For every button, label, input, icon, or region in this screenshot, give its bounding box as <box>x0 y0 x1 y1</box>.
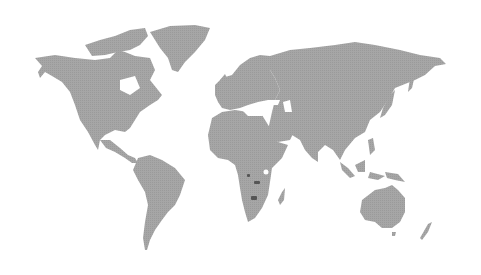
central-america <box>100 140 138 163</box>
world-map-svg <box>0 0 481 275</box>
tasmania <box>392 232 396 236</box>
highlight-central-africa-1 <box>247 174 250 177</box>
lake-victoria <box>264 170 269 175</box>
continent-north-america <box>35 50 162 150</box>
highlight-southern-africa-3 <box>251 196 257 200</box>
new-zealand <box>420 222 432 240</box>
world-map <box>0 0 481 275</box>
canadian-arctic-islands <box>85 28 148 56</box>
continent-south-america <box>133 155 185 250</box>
new-guinea <box>385 172 405 182</box>
philippines <box>368 138 375 155</box>
highlight-central-africa-2 <box>254 181 260 184</box>
continent-asia <box>270 42 446 162</box>
indonesia <box>340 160 385 180</box>
continent-greenland <box>150 25 210 72</box>
continent-australia <box>360 185 405 228</box>
madagascar <box>278 188 285 205</box>
